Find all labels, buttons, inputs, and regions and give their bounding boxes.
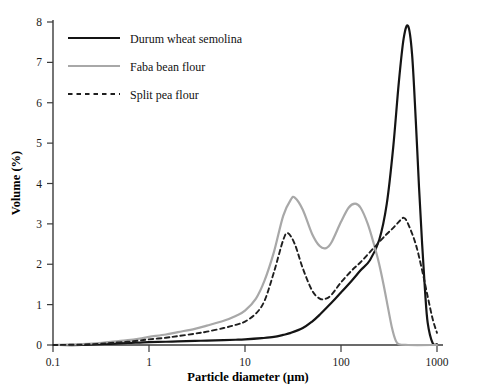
chart-legend: Durum wheat semolinaFaba bean flourSplit… [68,32,243,102]
y-tick-label: 8 [36,16,42,28]
x-tick-label: 100 [332,356,350,368]
x-axis-ticks: 0.11101001000 [46,345,449,368]
x-tick-label: 0.1 [46,356,61,368]
y-tick-label: 2 [36,258,42,270]
series-line [53,25,437,345]
particle-size-distribution-chart: 012345678 0.11101001000 Particle diamete… [0,0,478,392]
x-tick-label: 1 [146,356,152,368]
figure-container: 012345678 0.11101001000 Particle diamete… [0,0,478,392]
chart-axes [53,20,443,345]
y-tick-label: 7 [36,56,42,68]
y-tick-label: 4 [36,178,42,190]
y-axis-ticks: 012345678 [36,16,53,351]
y-axis-title: Volume (%) [9,151,23,215]
x-tick-label: 1000 [426,356,449,368]
legend-label: Durum wheat semolina [130,32,243,46]
y-tick-label: 0 [36,339,42,351]
y-tick-label: 6 [36,97,42,109]
data-series-layer [53,25,437,345]
legend-label: Split pea flour [130,88,199,102]
series-line [53,197,437,345]
y-tick-label: 3 [36,218,42,230]
x-tick-label: 10 [239,356,251,368]
y-tick-label: 5 [36,137,42,149]
y-tick-label: 1 [36,299,42,311]
legend-label: Faba bean flour [130,60,205,74]
x-axis-title: Particle diameter (µm) [187,370,309,384]
